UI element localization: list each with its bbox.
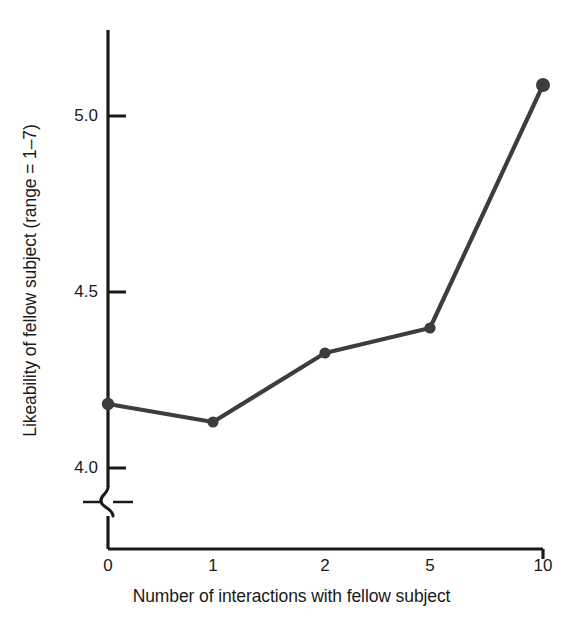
data-point-marker: [536, 78, 550, 92]
data-point-marker: [424, 322, 435, 333]
line-chart-plot: [0, 0, 583, 632]
data-series-line: [108, 85, 543, 422]
figure-container: 5.0 4.5 4.0 0 1 2 5 10 Likeability of fe…: [0, 0, 583, 632]
data-point-marker: [207, 416, 218, 427]
data-point-marker: [102, 398, 114, 410]
data-point-marker: [319, 347, 330, 358]
